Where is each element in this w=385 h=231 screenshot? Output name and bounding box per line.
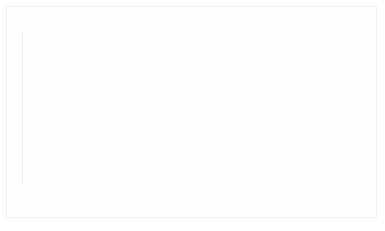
- y-axis-line: [22, 32, 23, 184]
- chart-screenshot: [0, 0, 385, 231]
- stacked-bar-group: [36, 40, 368, 180]
- chart-plot-area: [22, 14, 372, 214]
